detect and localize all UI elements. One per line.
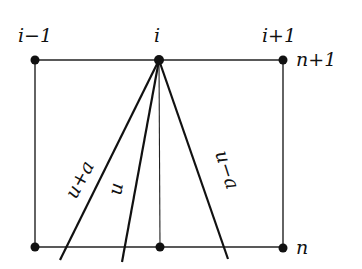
column-label-i-minus-1: i−1 [18,24,52,46]
characteristic-u [122,60,159,262]
node-top-center [154,55,164,65]
node-top-right [279,56,288,65]
characteristic-u-plus-a [60,60,159,260]
characteristic-label-u-minus-a: u−a [211,147,244,191]
column-label-i: i [154,24,160,46]
node-bottom-left [31,243,40,252]
column-label-i-plus-1: i+1 [262,24,296,46]
center-column-line [159,60,160,247]
characteristic-label-u: u [103,181,127,197]
characteristics-diagram: i−1 i i+1 n+1 n u+a u u−a [0,0,362,269]
row-label-n-plus-1: n+1 [296,48,336,70]
node-bottom-center [156,243,165,252]
row-label-n: n [296,236,308,258]
node-top-left [31,56,40,65]
node-bottom-right [279,244,288,253]
